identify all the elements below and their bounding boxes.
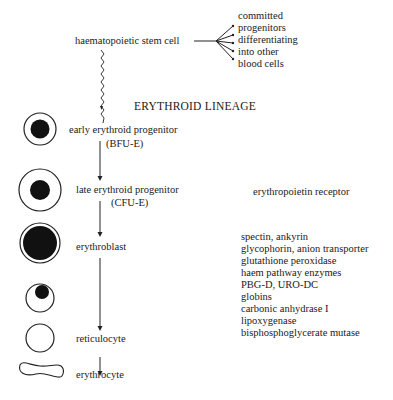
stage-label-erythrocyte: erythrocyte	[76, 369, 124, 381]
stage-label-early: early erythroid progenitor	[69, 124, 177, 136]
diagram-title: ERYTHROID LINEAGE	[134, 100, 256, 112]
protein-marker: glutathione peroxidase	[241, 255, 368, 267]
stage-sublabel-early: (BFU-E)	[106, 138, 143, 150]
branch-text-line: progenitors	[238, 22, 298, 34]
protein-marker: globins	[241, 291, 368, 303]
cell-reticulocyte	[26, 324, 54, 352]
wavy-arrow	[101, 50, 104, 123]
stage-label-late: late erythroid progenitor	[76, 184, 179, 196]
protein-marker: haem pathway enzymes	[241, 267, 368, 279]
protein-markers-list: spectin, ankyrin glycophorin, anion tran…	[241, 231, 368, 339]
protein-marker: PBG-D, URO-DC	[241, 279, 368, 291]
stage-label-erythroblast: erythroblast	[76, 241, 126, 253]
cell-erythrocyte	[20, 363, 64, 377]
branch-text-line: blood cells	[238, 58, 298, 70]
protein-marker: carbonic anhydrase I	[241, 303, 368, 315]
cell-early-progenitor	[24, 113, 56, 145]
stage-label-reticulocyte: reticulocyte	[76, 333, 126, 345]
branch-lines	[194, 26, 233, 59]
protein-marker: bisphosphoglycerate mutase	[241, 327, 368, 339]
cell-erythroblast	[20, 223, 60, 263]
branch-text: committed progenitors differentiating in…	[238, 10, 298, 70]
branch-text-line: committed	[238, 10, 298, 22]
protein-marker: glycophorin, anion transporter	[241, 243, 368, 255]
branch-text-line: into other	[238, 46, 298, 58]
receptor-label: erythropoietin receptor	[253, 186, 350, 198]
cell-nucleus-extrusion	[26, 284, 54, 312]
protein-marker: lipoxygenase	[241, 315, 368, 327]
branch-text-line: differentiating	[238, 34, 298, 46]
cell-late-progenitor	[19, 169, 61, 211]
stem-cell-label: haematopoietic stem cell	[75, 35, 179, 47]
stage-sublabel-late: (CFU-E)	[111, 197, 148, 209]
diagram-graphics	[0, 0, 393, 400]
protein-marker: spectin, ankyrin	[241, 231, 368, 243]
